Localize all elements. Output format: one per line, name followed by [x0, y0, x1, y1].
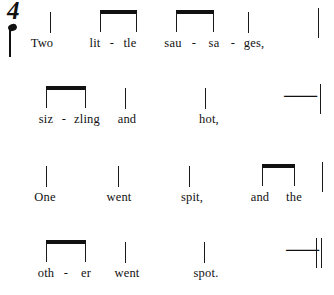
lyric-hyphen: - — [231, 36, 235, 51]
quarter-note-stem — [204, 242, 205, 263]
quarter-note-stem — [118, 166, 119, 187]
beam — [176, 10, 214, 14]
eighth-note-stem — [85, 89, 86, 108]
lyric-syllable: One — [34, 190, 55, 205]
quarter-note-stem — [46, 166, 47, 187]
beam — [262, 164, 295, 168]
quarter-note-stem — [248, 12, 249, 33]
lyric-syllable: zling — [74, 112, 100, 127]
rhythm-row: ⸺ — [0, 82, 334, 116]
lyric-hyphen: - — [64, 266, 68, 281]
eighth-note-stem — [85, 243, 86, 262]
lyric-syllable: siz — [39, 112, 54, 127]
lyric-syllable: Two — [31, 36, 54, 51]
quarter-note-stem — [125, 242, 126, 263]
rhythm-score: 4 Twolit-tlesau-sa-ges,⸺siz-zlingandhot,… — [0, 0, 334, 295]
quarter-note-stem — [50, 12, 51, 33]
eighth-note-stem — [262, 167, 263, 186]
lyric-syllable: hot, — [199, 112, 219, 127]
lyric-hyphen: - — [110, 36, 114, 51]
music-system: Twolit-tlesau-sa-ges, — [0, 6, 334, 80]
eighth-note-stem — [176, 13, 177, 32]
lyric-syllable: er — [81, 266, 91, 281]
quarter-note-stem — [125, 88, 126, 109]
lyric-syllable: lit — [89, 36, 100, 51]
eighth-note-stem — [213, 13, 214, 32]
music-system: Onewentspit,andthe — [0, 160, 334, 234]
quarter-rest: ⸺ — [285, 239, 320, 260]
lyric-syllable: went — [106, 190, 131, 205]
lyric-syllable: the — [286, 190, 302, 205]
quarter-note-stem — [189, 166, 190, 187]
lyric-syllable: oth — [38, 266, 55, 281]
lyric-hyphen: - — [62, 112, 66, 127]
barline — [318, 8, 319, 38]
lyric-syllable: and — [251, 190, 270, 205]
beamed-eighth-pair — [262, 164, 295, 189]
lyric-syllable: sa — [209, 36, 220, 51]
eighth-note-stem — [294, 167, 295, 186]
music-system: ⸺siz-zlingandhot, — [0, 82, 334, 156]
beamed-eighth-pair — [100, 10, 137, 35]
rhythm-row: ⸺ — [0, 236, 334, 270]
lyric-syllable: spot. — [194, 266, 219, 281]
rhythm-row — [0, 160, 334, 194]
eighth-note-stem — [100, 13, 101, 32]
lyric-row: Twolit-tlesau-sa-ges, — [0, 36, 334, 62]
beam — [100, 10, 137, 14]
lyric-syllable: ges, — [244, 36, 265, 51]
lyric-syllable: spit, — [181, 190, 203, 205]
lyric-hyphen: - — [192, 36, 196, 51]
rhythm-row — [0, 6, 334, 40]
barline — [320, 84, 321, 114]
beamed-eighth-pair — [46, 86, 86, 111]
lyric-syllable: and — [118, 112, 137, 127]
eighth-note-stem — [46, 243, 47, 262]
lyric-syllable: sau — [164, 36, 181, 51]
lyric-syllable: tle — [123, 36, 136, 51]
lyric-syllable: went — [114, 266, 139, 281]
beam — [46, 240, 86, 244]
beamed-eighth-pair — [176, 10, 214, 35]
music-system: ⸺oth-erwentspot. — [0, 236, 334, 295]
beam — [46, 86, 86, 90]
lyric-row: oth-erwentspot. — [0, 266, 334, 292]
eighth-note-stem — [46, 89, 47, 108]
lyric-row: siz-zlingandhot, — [0, 112, 334, 138]
beamed-eighth-pair — [46, 240, 86, 265]
quarter-rest: ⸺ — [283, 85, 318, 106]
final-double-barline — [321, 238, 322, 268]
eighth-note-stem — [136, 13, 137, 32]
final-double-barline — [316, 238, 317, 268]
barline — [322, 162, 323, 192]
quarter-note-stem — [205, 88, 206, 109]
lyric-row: Onewentspit,andthe — [0, 190, 334, 216]
